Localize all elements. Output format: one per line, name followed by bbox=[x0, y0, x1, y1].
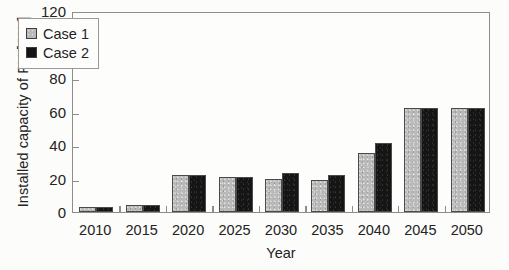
x-axis-tick-mark bbox=[445, 206, 446, 212]
bar-case-1 bbox=[265, 179, 282, 213]
bar-group bbox=[219, 177, 253, 212]
bar-case-2 bbox=[375, 143, 392, 212]
legend-swatch-case-2-icon bbox=[26, 47, 37, 58]
x-axis-tick-label: 2050 bbox=[440, 222, 494, 238]
bar-case-1 bbox=[172, 175, 189, 212]
bar-case-1 bbox=[311, 180, 328, 212]
y-axis-tick-mark bbox=[73, 114, 79, 115]
bar-group bbox=[265, 173, 299, 212]
legend-label-case-1: Case 1 bbox=[43, 26, 89, 42]
bar-case-1 bbox=[404, 108, 421, 212]
y-axis-tick-label: 80 bbox=[24, 71, 66, 86]
y-axis-tick-mark bbox=[73, 80, 79, 81]
y-axis-tick-label: 120 bbox=[24, 4, 66, 19]
bar-case-2 bbox=[143, 205, 160, 212]
y-axis-tick-label: 40 bbox=[24, 138, 66, 153]
bar-group bbox=[311, 175, 345, 212]
bar-case-2 bbox=[468, 108, 485, 212]
bar-group bbox=[358, 143, 392, 212]
y-axis-tick-label: 20 bbox=[24, 172, 66, 187]
bar-case-2 bbox=[189, 175, 206, 212]
bar-group bbox=[126, 205, 160, 212]
bar-chart-figure: Installed capacity of PV [GW] 0204060801… bbox=[0, 0, 509, 270]
plot-area bbox=[72, 12, 490, 213]
bar-group bbox=[79, 207, 113, 212]
y-axis-tick-mark bbox=[73, 181, 79, 182]
bar-case-1 bbox=[358, 153, 375, 212]
bar-case-2 bbox=[328, 175, 345, 212]
legend-item-case-1: Case 1 bbox=[26, 24, 89, 43]
x-axis-tick-mark bbox=[398, 206, 399, 212]
bar-group bbox=[451, 108, 485, 212]
bar-case-1 bbox=[79, 207, 96, 212]
bars-container bbox=[73, 13, 489, 212]
bar-case-2 bbox=[421, 108, 438, 212]
legend-label-case-2: Case 2 bbox=[43, 45, 89, 61]
y-axis-tick-label: 0 bbox=[24, 205, 66, 220]
bar-group bbox=[172, 175, 206, 212]
legend-swatch-case-1-icon bbox=[26, 28, 37, 39]
x-axis-tick-mark bbox=[119, 206, 120, 212]
y-axis-tick-label: 60 bbox=[24, 105, 66, 120]
x-axis-tick-mark bbox=[166, 206, 167, 212]
bar-case-1 bbox=[219, 177, 236, 212]
bar-case-1 bbox=[451, 108, 468, 212]
bar-case-2 bbox=[282, 173, 299, 212]
bar-case-2 bbox=[236, 177, 253, 212]
bar-case-1 bbox=[126, 205, 143, 212]
x-axis-title: Year bbox=[72, 245, 490, 261]
bar-group bbox=[404, 108, 438, 212]
y-axis-tick-mark bbox=[73, 147, 79, 148]
x-axis-tick-mark bbox=[259, 206, 260, 212]
legend: Case 1 Case 2 bbox=[18, 18, 99, 69]
x-axis-tick-mark bbox=[305, 206, 306, 212]
legend-item-case-2: Case 2 bbox=[26, 43, 89, 62]
x-axis-tick-mark bbox=[212, 206, 213, 212]
x-axis-tick-mark bbox=[352, 206, 353, 212]
bar-case-2 bbox=[96, 207, 113, 212]
